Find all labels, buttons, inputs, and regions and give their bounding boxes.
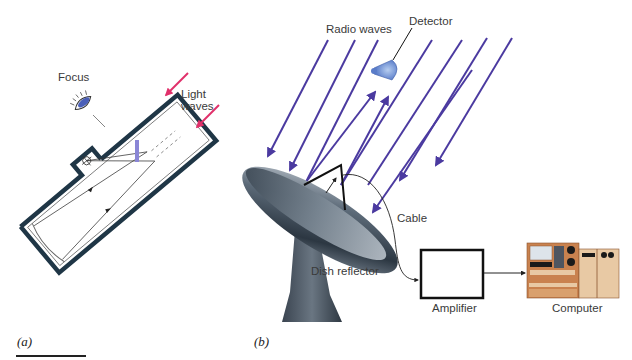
secondary-mirror (135, 140, 139, 162)
panel-b-label: (b) (254, 335, 269, 348)
figure: Focus Light waves (a) Radio waves Detect… (0, 0, 632, 360)
radio-telescope (229, 28, 619, 322)
cable-label: Cable (397, 213, 427, 225)
amplifier-box (421, 250, 483, 298)
light-waves-label-line1: Light (181, 88, 206, 101)
amplifier-label: Amplifier (432, 303, 477, 315)
computer-label: Computer (552, 303, 603, 315)
radio-waves-label: Radio waves (326, 24, 392, 36)
caption-rule (16, 355, 86, 357)
diagram-canvas (0, 0, 632, 360)
dish-reflector (229, 149, 411, 322)
detector-label: Detector (409, 16, 452, 28)
detector-icon (371, 28, 412, 80)
computer-icon (527, 243, 619, 298)
dish-reflector-label: Dish reflector (311, 266, 379, 278)
focus-label: Focus (58, 72, 89, 84)
eye-icon (68, 88, 93, 112)
panel-a-label: (a) (17, 335, 32, 348)
light-waves-label-line2: waves (181, 100, 214, 113)
